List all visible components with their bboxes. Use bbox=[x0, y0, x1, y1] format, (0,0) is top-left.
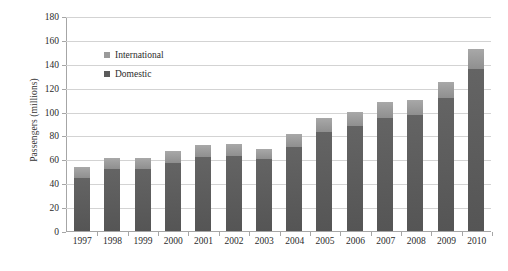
x-tick-label-2001: 2001 bbox=[188, 236, 218, 246]
bar-slot-2003[interactable] bbox=[249, 17, 279, 231]
x-tick-label-1998: 1998 bbox=[97, 236, 127, 246]
x-tick-label-2003: 2003 bbox=[249, 236, 279, 246]
y-tickmark bbox=[62, 65, 66, 66]
bar-segment-international-1997[interactable] bbox=[74, 167, 90, 179]
bar-segment-domestic-2000[interactable] bbox=[165, 163, 181, 231]
bar-segment-domestic-1998[interactable] bbox=[104, 169, 120, 231]
y-tickmark bbox=[62, 208, 66, 209]
bar-segment-international-2006[interactable] bbox=[347, 112, 363, 126]
y-tick-label: 40 bbox=[50, 179, 60, 189]
x-tick-label-1999: 1999 bbox=[128, 236, 158, 246]
legend-swatch-icon bbox=[104, 71, 110, 77]
y-tickmark bbox=[62, 136, 66, 137]
bar-stack[interactable] bbox=[316, 118, 332, 231]
bar-stack[interactable] bbox=[74, 167, 90, 231]
bar-slot-2005[interactable] bbox=[309, 17, 339, 231]
bar-segment-international-2007[interactable] bbox=[377, 102, 393, 118]
y-tick-label: 160 bbox=[45, 36, 59, 46]
x-axis-labels: 1997199819992000200120022003200420052006… bbox=[67, 236, 492, 246]
bar-slot-2006[interactable] bbox=[340, 17, 370, 231]
legend-swatch-icon bbox=[104, 52, 110, 58]
bar-segment-international-2000[interactable] bbox=[165, 151, 181, 163]
legend-entry-international[interactable]: International bbox=[104, 50, 164, 60]
bar-segment-international-1998[interactable] bbox=[104, 158, 120, 169]
bar-segment-international-2008[interactable] bbox=[407, 100, 423, 116]
bar-slot-2008[interactable] bbox=[400, 17, 430, 231]
x-tick-label-2005: 2005 bbox=[310, 236, 340, 246]
bar-segment-domestic-2003[interactable] bbox=[256, 159, 272, 231]
bar-segment-domestic-2009[interactable] bbox=[438, 98, 454, 231]
bar-segment-domestic-2002[interactable] bbox=[226, 156, 242, 231]
bar-stack[interactable] bbox=[286, 134, 302, 231]
y-tick-label: 20 bbox=[50, 203, 60, 213]
x-tick-label-2007: 2007 bbox=[371, 236, 401, 246]
bar-segment-domestic-2001[interactable] bbox=[195, 157, 211, 231]
bar-stack[interactable] bbox=[468, 49, 484, 231]
legend-entry-domestic[interactable]: Domestic bbox=[104, 69, 164, 79]
x-tick-label-2008: 2008 bbox=[401, 236, 431, 246]
y-tickmark bbox=[62, 160, 66, 161]
bar-stack[interactable] bbox=[104, 158, 120, 231]
y-tick-label: 60 bbox=[50, 155, 60, 165]
bar-segment-international-1999[interactable] bbox=[135, 158, 151, 169]
bar-segment-international-2009[interactable] bbox=[438, 82, 454, 99]
bar-slot-2004[interactable] bbox=[279, 17, 309, 231]
y-tickmark bbox=[62, 89, 66, 90]
y-tickmark bbox=[62, 113, 66, 114]
y-tick-label: 80 bbox=[50, 131, 60, 141]
bar-stack[interactable] bbox=[407, 100, 423, 231]
y-tickmark bbox=[62, 41, 66, 42]
y-tick-label: 180 bbox=[45, 12, 59, 22]
bar-segment-domestic-2008[interactable] bbox=[407, 115, 423, 231]
y-tick-label: 100 bbox=[45, 108, 59, 118]
bar-segment-domestic-1997[interactable] bbox=[74, 178, 90, 231]
bar-segment-domestic-1999[interactable] bbox=[135, 169, 151, 231]
bar-slot-2001[interactable] bbox=[188, 17, 218, 231]
x-tick-label-2004: 2004 bbox=[280, 236, 310, 246]
bar-slot-2002[interactable] bbox=[218, 17, 248, 231]
x-axis-line bbox=[66, 231, 491, 232]
bar-segment-international-2003[interactable] bbox=[256, 149, 272, 160]
bar-segment-international-2002[interactable] bbox=[226, 144, 242, 156]
bar-slot-2007[interactable] bbox=[370, 17, 400, 231]
legend-label: Domestic bbox=[115, 69, 151, 79]
bar-slot-2009[interactable] bbox=[430, 17, 460, 231]
x-tick-label-2010: 2010 bbox=[462, 236, 492, 246]
bar-stack[interactable] bbox=[347, 112, 363, 231]
bar-segment-domestic-2007[interactable] bbox=[377, 118, 393, 231]
bar-slot-2010[interactable] bbox=[461, 17, 491, 231]
passenger-volume-chart: Passengers (millions) 180160140120100806… bbox=[0, 0, 508, 271]
y-tick-label: 140 bbox=[45, 60, 59, 70]
bar-stack[interactable] bbox=[226, 144, 242, 231]
bar-segment-domestic-2005[interactable] bbox=[316, 132, 332, 231]
x-tick-label-2006: 2006 bbox=[340, 236, 370, 246]
bar-segment-domestic-2004[interactable] bbox=[286, 147, 302, 231]
y-axis-title: Passengers (millions) bbox=[29, 25, 39, 215]
bar-stack[interactable] bbox=[438, 82, 454, 231]
bar-stack[interactable] bbox=[135, 158, 151, 231]
bar-stack[interactable] bbox=[377, 102, 393, 231]
chart-legend: InternationalDomestic bbox=[104, 50, 164, 88]
bar-segment-domestic-2010[interactable] bbox=[468, 69, 484, 231]
x-tickmark bbox=[492, 232, 493, 236]
bar-segment-international-2010[interactable] bbox=[468, 49, 484, 68]
x-tick-label-2002: 2002 bbox=[219, 236, 249, 246]
y-tickmark bbox=[62, 17, 66, 18]
bar-stack[interactable] bbox=[256, 149, 272, 231]
bar-slot-1997[interactable] bbox=[67, 17, 97, 231]
y-tick-label: 0 bbox=[54, 227, 59, 237]
bar-stack[interactable] bbox=[165, 151, 181, 231]
bar-segment-international-2001[interactable] bbox=[195, 145, 211, 157]
bar-segment-international-2004[interactable] bbox=[286, 134, 302, 147]
x-tick-label-2009: 2009 bbox=[431, 236, 461, 246]
y-tickmark bbox=[62, 184, 66, 185]
y-tickmark bbox=[62, 232, 66, 233]
bar-segment-domestic-2006[interactable] bbox=[347, 126, 363, 231]
x-tick-label-2000: 2000 bbox=[158, 236, 188, 246]
bar-segment-international-2005[interactable] bbox=[316, 118, 332, 132]
bar-stack[interactable] bbox=[195, 145, 211, 231]
y-tick-label: 120 bbox=[45, 84, 59, 94]
x-tick-label-1997: 1997 bbox=[67, 236, 97, 246]
legend-label: International bbox=[115, 50, 164, 60]
